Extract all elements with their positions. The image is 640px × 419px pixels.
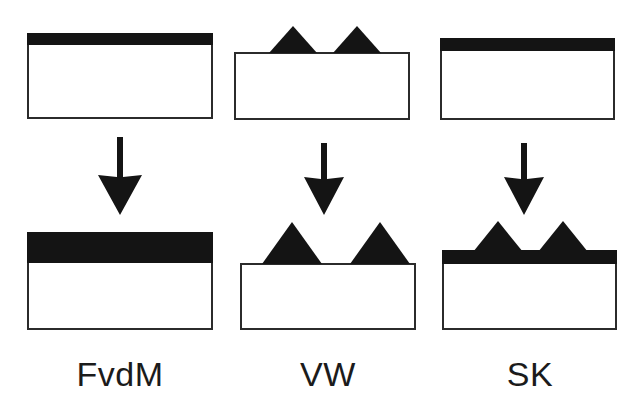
substrate-vw-after: [240, 263, 416, 330]
island-vw-after-1: [262, 222, 322, 264]
growth-arrow-vw: [296, 143, 352, 215]
island-sk-after-1: [473, 221, 523, 252]
film-layer-fvdm-after: [27, 232, 213, 263]
island-vw-before-2: [333, 26, 381, 53]
growth-arrow-sk: [496, 143, 552, 215]
label-sk: SK: [440, 355, 620, 394]
film-layer-sk-before: [440, 38, 615, 51]
island-vw-after-2: [350, 222, 410, 264]
island-sk-after-2: [538, 221, 588, 252]
island-vw-before-1: [269, 26, 317, 53]
growth-modes-diagram: FvdM VW: [0, 0, 640, 419]
substrate-vw-before: [234, 52, 410, 120]
film-layer-fvdm-before: [27, 33, 213, 45]
label-vw: VW: [238, 355, 418, 394]
substrate-fvdm-before: [27, 33, 213, 119]
growth-arrow-fvdm: [92, 137, 148, 215]
film-layer-sk-after: [442, 250, 617, 264]
label-fvdm: FvdM: [30, 355, 210, 394]
